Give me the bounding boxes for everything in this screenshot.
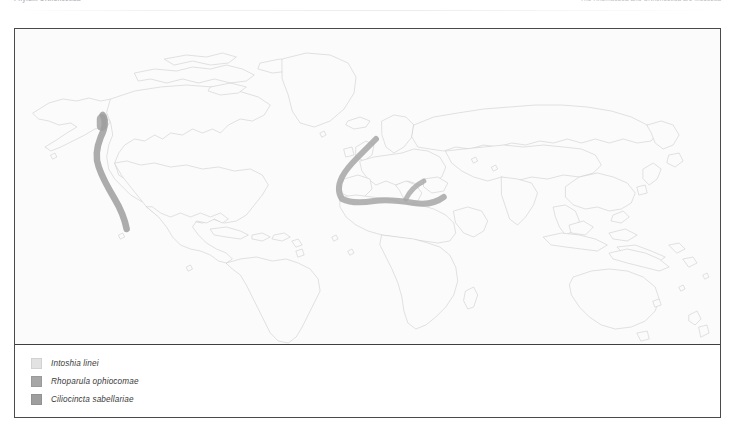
landmass-iceland [346,117,370,129]
legend-label-intoshia-linei: Intoshia linei [51,359,99,368]
landmass-greenland [282,53,356,127]
legend-swatch-intoshia-linei [31,358,42,369]
landmass-new-guinea [609,249,669,271]
landmass-kamchatka [647,121,683,167]
legend-label-rhoparula-ophiocomae: Rhoparula ophiocomae [51,377,139,386]
figure-legend: Intoshia linei Rhoparula ophiocomae Cili… [15,345,720,417]
landmass-south-america [226,257,320,343]
running-head-right: The Rhombozoa and Orthonectida are Mesoz… [580,0,721,2]
landmass-group [33,53,709,343]
landmass-tasmania [637,331,649,341]
landmass-arabia [454,207,488,237]
landmass-central-asia [446,145,602,181]
landmass-africa [380,235,458,329]
legend-item-intoshia-linei: Intoshia linei [31,354,720,372]
legend-label-ciliocincta-sabellariae: Ciliocincta sabellariae [51,395,134,404]
world-map-svg [15,29,720,344]
running-head-left: Phylum Orthonectida [14,0,81,2]
figure-panel: Intoshia linei Rhoparula ophiocomae Cili… [14,28,721,418]
landmass-australia [569,269,659,329]
running-head-rule [14,10,721,11]
legend-swatch-rhoparula-ophiocomae [31,376,42,387]
legend-item-ciliocincta-sabellariae: Ciliocincta sabellariae [31,390,720,408]
legend-swatch-ciliocincta-sabellariae [31,394,42,405]
landmass-east-asia [565,173,635,211]
landmass-russia [412,105,657,151]
landmass-madagascar [464,287,478,309]
landmass-india [502,177,538,225]
landmass-japan [637,163,661,195]
landmass-scandinavia [382,115,414,153]
landmass-new-zealand [689,311,709,337]
legend-item-rhoparula-ophiocomae: Rhoparula ophiocomae [31,372,720,390]
world-map [15,29,720,345]
landmass-usa [115,161,269,225]
